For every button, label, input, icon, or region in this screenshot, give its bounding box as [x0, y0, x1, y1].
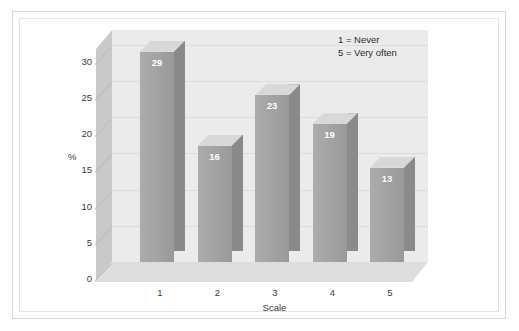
x-tick-label: 3: [255, 287, 295, 298]
bar-side-face: [404, 157, 415, 251]
chart-floor: [96, 262, 428, 282]
bar-value-label: 19: [313, 129, 347, 140]
y-tick-label: 20: [66, 129, 92, 139]
bar-column[interactable]: 16: [198, 135, 232, 262]
y-tick-label: 10: [66, 202, 92, 212]
bar-column[interactable]: 19: [313, 113, 347, 262]
bar-column[interactable]: 29: [140, 41, 174, 262]
gridline: [112, 262, 428, 263]
y-tick: 25: [62, 98, 92, 99]
bar-column[interactable]: 13: [370, 157, 404, 262]
bar-side-face: [347, 113, 358, 251]
bar-value-label: 29: [140, 57, 174, 68]
legend: 1 = Never 5 = Very often: [338, 33, 397, 59]
x-tick-label: 1: [140, 287, 180, 298]
y-tick-label: 0: [66, 274, 92, 284]
y-tick: 5: [62, 243, 92, 244]
y-axis-title: %: [68, 151, 76, 162]
y-tick-label: 30: [66, 57, 92, 67]
x-tick-label: 4: [313, 287, 353, 298]
y-tick-label: 25: [66, 93, 92, 103]
bar-front-face: [313, 124, 347, 262]
bar-side-face: [174, 41, 185, 251]
x-axis-title: Scale: [0, 302, 519, 313]
x-tick-label: 5: [370, 287, 410, 298]
bar-front-face: [140, 52, 174, 262]
bar-side-face: [289, 84, 300, 251]
bar-value-label: 23: [255, 100, 289, 111]
bar-side-face: [232, 135, 243, 251]
bar-front-face: [198, 146, 232, 262]
y-tick: 20: [62, 134, 92, 135]
legend-item-never: 1 = Never: [338, 33, 397, 46]
x-tick-label: 2: [198, 287, 238, 298]
y-tick-label: 15: [66, 165, 92, 175]
bar-value-label: 16: [198, 151, 232, 162]
bar-front-face: [255, 95, 289, 262]
y-tick: 10: [62, 207, 92, 208]
y-tick: 0: [62, 279, 92, 280]
bar-value-label: 13: [370, 173, 404, 184]
legend-item-very-often: 5 = Very often: [338, 46, 397, 59]
y-tick: 30: [62, 62, 92, 63]
bar-chart: 051015202530 % 2916231913 12345 Scale 1 …: [0, 0, 519, 331]
figure: 051015202530 % 2916231913 12345 Scale 1 …: [0, 0, 519, 331]
y-tick-label: 5: [66, 238, 92, 248]
y-tick: 15: [62, 170, 92, 171]
x-axis-title-text: Scale: [263, 302, 287, 313]
bar-column[interactable]: 23: [255, 84, 289, 262]
